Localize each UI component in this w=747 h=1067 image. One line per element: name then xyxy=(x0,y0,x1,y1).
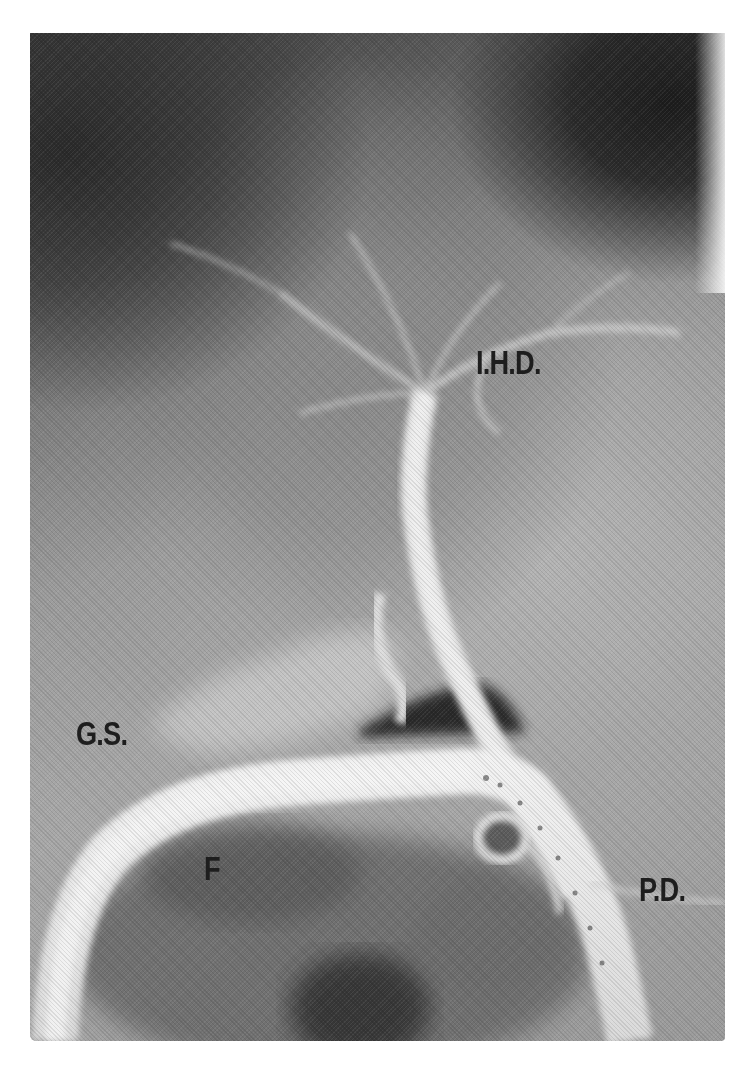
radiograph-structures xyxy=(30,33,725,1041)
film-edge-fade xyxy=(695,33,725,293)
radiograph-image xyxy=(30,33,725,1041)
label-gall-stone-region: G.S. xyxy=(76,716,127,750)
label-intrahepatic-ducts: I.H.D. xyxy=(476,345,541,379)
label-pancreatic-duct: P.D. xyxy=(639,872,685,906)
label-f: F xyxy=(204,851,220,885)
page-running-header xyxy=(420,0,710,5)
